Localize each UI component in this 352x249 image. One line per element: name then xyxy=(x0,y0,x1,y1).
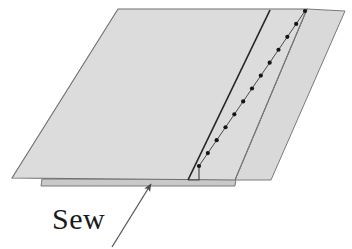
stitch-dot xyxy=(197,164,201,168)
stitch-dot xyxy=(215,138,219,142)
sew-pointer-arrow xyxy=(112,184,151,247)
stitch-dot xyxy=(250,86,254,90)
stitch-dot xyxy=(268,61,272,65)
stitch-dot xyxy=(241,99,245,103)
stitch-dot xyxy=(303,9,307,13)
stitch-dot xyxy=(223,125,227,129)
stitch-dot xyxy=(259,73,263,77)
stitch-dot xyxy=(276,48,280,52)
stitch-dot xyxy=(285,35,289,39)
sew-label: Sew xyxy=(52,204,105,234)
stitch-dot xyxy=(232,112,236,116)
figure-root: Sew xyxy=(0,0,352,249)
stitch-dot xyxy=(206,151,210,155)
stitch-dot xyxy=(294,22,298,26)
